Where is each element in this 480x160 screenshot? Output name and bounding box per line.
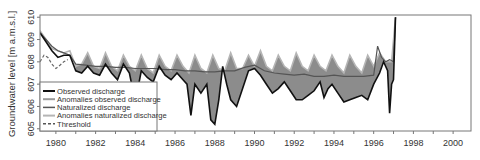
x-tick-label: 1982 — [86, 138, 106, 148]
anomalies-naturalized-line — [40, 17, 396, 73]
y-tick-label: 609 — [26, 32, 36, 47]
x-tick-label: 1984 — [125, 138, 145, 148]
x-tick-label: 1990 — [244, 138, 264, 148]
x-tick-label: 1988 — [205, 138, 225, 148]
x-tick-label: 2000 — [443, 138, 463, 148]
y-tick-label: 607 — [26, 77, 36, 92]
threshold-line — [40, 55, 68, 68]
x-tick-label: 1996 — [364, 138, 384, 148]
x-tick-label: 1986 — [165, 138, 185, 148]
legend-label: Threshold — [57, 120, 91, 129]
y-tick-label: 605 — [26, 121, 36, 136]
x-tick-label: 1980 — [46, 138, 66, 148]
y-axis-label: Groundwater level [m a.m.s.l.] — [6, 11, 17, 137]
y-axis: 605606607608609610 — [26, 10, 40, 137]
x-tick-label: 1992 — [284, 138, 304, 148]
y-tick-label: 610 — [26, 10, 36, 25]
x-tick-label: 1998 — [403, 138, 423, 148]
x-axis: 1980198219841986198819901992199419961998… — [46, 131, 463, 148]
y-tick-label: 608 — [26, 54, 36, 69]
x-tick-label: 1994 — [324, 138, 344, 148]
groundwater-chart: 605606607608609610 198019821984198619881… — [0, 0, 480, 160]
y-tick-label: 606 — [26, 99, 36, 114]
legend: Observed dischargeAnomalies observed dis… — [40, 82, 167, 131]
